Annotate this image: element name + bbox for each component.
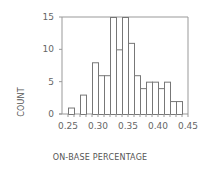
x-tick-label: 0.30 [88, 121, 108, 131]
x-tick-label: 0.25 [58, 121, 78, 131]
histogram-bar [153, 82, 159, 114]
y-axis: 051015 [43, 12, 62, 119]
histogram-bar [123, 18, 129, 115]
histogram-bar [111, 18, 117, 115]
histogram-bar [171, 102, 177, 115]
x-axis: 0.250.300.350.400.45 [58, 114, 198, 131]
histogram-bar [117, 50, 123, 115]
histogram-bar [93, 63, 99, 115]
x-axis-title: ON-BASE PERCENTAGE [53, 153, 148, 162]
histogram-bar [177, 102, 183, 115]
histogram-bar [159, 89, 165, 115]
histogram-bars [69, 18, 183, 115]
histogram-bar [147, 82, 153, 114]
histogram-bar [135, 76, 141, 115]
histogram-bar [129, 43, 135, 114]
y-tick-label: 10 [43, 44, 55, 54]
histogram-bar [99, 76, 105, 115]
y-axis-title: COUNT [17, 87, 26, 117]
x-tick-label: 0.40 [148, 121, 168, 131]
x-tick-label: 0.45 [178, 121, 198, 131]
histogram-bar [69, 108, 75, 114]
histogram-chart: 051015 0.250.300.350.400.45 COUNT ON-BAS… [0, 0, 214, 170]
x-tick-label: 0.35 [118, 121, 138, 131]
histogram-bar [165, 82, 171, 114]
y-tick-label: 5 [48, 77, 54, 87]
histogram-bar [105, 76, 111, 115]
histogram-bar [141, 89, 147, 115]
histogram-bar [81, 95, 87, 114]
y-tick-label: 15 [43, 12, 54, 22]
y-tick-label: 0 [48, 109, 54, 119]
